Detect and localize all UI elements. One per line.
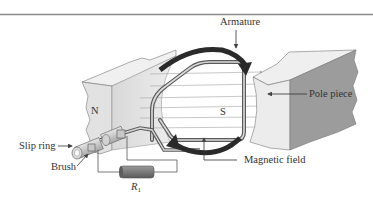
magnetic-field-label: Magnetic field	[244, 155, 306, 166]
rotation-arrow-top-head	[238, 62, 252, 76]
south-pole-piece	[250, 50, 358, 150]
south-pole-label: S	[220, 107, 226, 118]
resistor-label: R1	[131, 182, 141, 194]
pole-piece-label: Pole piece	[309, 89, 352, 100]
resistor-label-subscript: 1	[137, 186, 141, 194]
slip-ring-label: Slip ring	[19, 141, 55, 152]
north-pole-label: N	[91, 106, 99, 117]
resistor-r1	[119, 166, 154, 178]
armature-label: Armature	[220, 17, 260, 28]
brush-label: Brush	[51, 162, 76, 173]
